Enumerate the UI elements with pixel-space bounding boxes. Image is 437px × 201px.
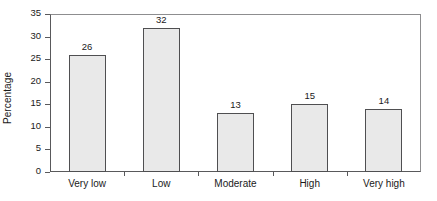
bar [365, 109, 402, 172]
bar [291, 104, 328, 172]
x-axis-category-label: Moderate [198, 178, 272, 189]
y-axis-tick-label: 35 [30, 7, 41, 18]
y-axis-tick-label: 20 [30, 75, 41, 86]
x-axis-category-label: Very high [347, 178, 421, 189]
x-axis-tick-mark [198, 172, 199, 176]
y-axis-title: Percentage [2, 48, 18, 148]
bar-value-label: 32 [136, 14, 186, 25]
y-axis-tick-label: 10 [30, 120, 41, 131]
bar-value-label: 15 [285, 90, 335, 101]
y-axis-tick-label: 5 [36, 142, 41, 153]
bar [143, 28, 180, 172]
y-axis-tick-label: 15 [30, 97, 41, 108]
bar [69, 55, 106, 172]
y-axis-tick: 25 [0, 59, 50, 60]
x-axis-category-label: Very low [50, 178, 124, 189]
bar [217, 113, 254, 172]
y-axis-tick: 10 [0, 127, 50, 128]
y-axis-tick-label: 25 [30, 52, 41, 63]
x-axis-category-label: Low [124, 178, 198, 189]
y-axis-tick-mark [45, 172, 50, 173]
y-axis-tick: 0 [0, 172, 50, 173]
bar-value-label: 26 [62, 41, 112, 52]
bar-chart: Percentage 05101520253035 2632131514 Ver… [0, 0, 437, 201]
x-axis-category-label: High [273, 178, 347, 189]
x-axis-tick-mark [273, 172, 274, 176]
bar-value-label: 13 [211, 99, 261, 110]
y-axis-tick: 15 [0, 104, 50, 105]
x-axis-tick-mark [347, 172, 348, 176]
y-axis-tick-label: 0 [36, 165, 41, 176]
y-axis-tick-label: 30 [30, 30, 41, 41]
bar-value-label: 14 [359, 95, 409, 106]
y-axis-tick: 20 [0, 82, 50, 83]
x-axis-tick-mark [124, 172, 125, 176]
y-axis-tick: 35 [0, 14, 50, 15]
y-axis-tick: 30 [0, 37, 50, 38]
y-axis-tick: 5 [0, 149, 50, 150]
